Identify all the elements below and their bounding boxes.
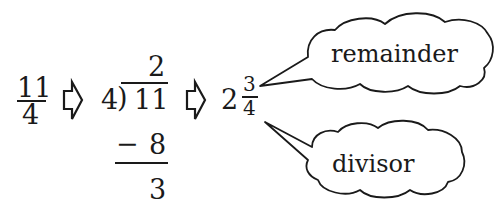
remainder-label: remainder: [331, 42, 458, 66]
right-arrow-icon: [64, 82, 82, 119]
right-arrow-icon: [187, 82, 205, 119]
diagram-shapes: [0, 0, 501, 211]
divisor-label: divisor: [332, 152, 415, 176]
